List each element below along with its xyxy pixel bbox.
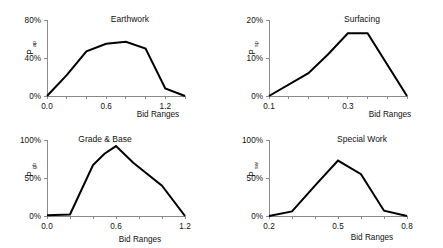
x-axis-title: Bid Ranges (351, 233, 393, 242)
svg-text:sp: sp (253, 41, 259, 47)
y-axis-title: Pap (26, 41, 37, 55)
x-axis-title: Bid Ranges (369, 110, 411, 119)
chart-title: Special Work (337, 134, 388, 144)
y-tick-label: 20% (247, 16, 263, 25)
chart-panel-earthwork: 0.00.61.20%40%80%EarthworkBid RangesPap (0, 0, 221, 124)
x-tick-label: 0.5 (332, 222, 344, 231)
chart-title: Earthwork (111, 14, 150, 24)
chart-panel-special-work: 0.20.50.80%50%100%Special WorkBid Ranges… (222, 124, 443, 248)
svg-text:P: P (248, 171, 257, 177)
chart-title: Surfacing (344, 14, 380, 24)
x-tick-label: 1.2 (179, 222, 191, 231)
x-tick-label: 0.0 (41, 102, 53, 111)
chart-panel-grade-and-base: 0.00.61.20%50%100%Grade & BaseBid Ranges… (0, 124, 221, 248)
chart-panel-surfacing: 0.10.30%10%20%SurfacingBid RangesPsp (222, 0, 443, 124)
series-line (47, 146, 185, 216)
x-tick-label: 0.6 (100, 102, 112, 111)
svg-text:ap: ap (31, 41, 37, 47)
chart-svg: 0.00.61.20%50%100%Grade & BaseBid Ranges… (0, 124, 221, 248)
y-tick-label: 80% (25, 16, 41, 25)
y-tick-label: 0% (251, 212, 263, 221)
y-tick-label: 0% (29, 92, 41, 101)
x-axis-title: Bid Ranges (119, 235, 161, 244)
series-line (269, 33, 407, 96)
svg-text:sw: sw (253, 161, 259, 169)
x-tick-label: 0.1 (263, 102, 275, 111)
y-tick-label: 0% (29, 212, 41, 221)
svg-text:P: P (248, 49, 257, 55)
figure-panel-grid: 0.00.61.20%40%80%EarthworkBid RangesPap … (0, 0, 443, 248)
y-axis-title: Psp (248, 41, 259, 55)
svg-text:P: P (26, 49, 35, 55)
y-tick-label: 100% (20, 136, 41, 145)
chart-svg: 0.10.30%10%20%SurfacingBid RangesPsp (222, 0, 443, 124)
x-tick-label: 0.0 (41, 222, 53, 231)
chart-svg: 0.00.61.20%40%80%EarthworkBid RangesPap (0, 0, 221, 124)
series-line (47, 42, 185, 96)
x-tick-label: 0.3 (342, 102, 354, 111)
x-axis-title: Bid Ranges (137, 110, 179, 119)
chart-title: Grade & Base (78, 134, 132, 144)
x-tick-label: 0.8 (401, 222, 413, 231)
y-tick-label: 0% (251, 92, 263, 101)
svg-text:P: P (26, 171, 35, 177)
x-tick-label: 0.2 (263, 222, 275, 231)
chart-svg: 0.20.50.80%50%100%Special WorkBid Ranges… (222, 124, 443, 248)
y-tick-label: 100% (242, 136, 263, 145)
x-tick-label: 0.6 (110, 222, 122, 231)
series-line (269, 161, 407, 216)
svg-text:gb: gb (31, 163, 37, 169)
